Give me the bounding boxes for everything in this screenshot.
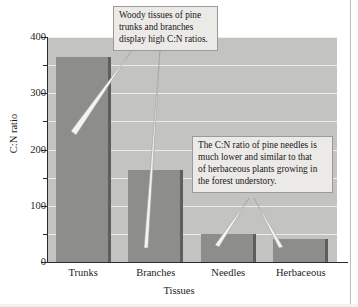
- callout-line: the forest understory.: [198, 176, 327, 188]
- y-tick-label: 400: [30, 32, 46, 43]
- callout-line: of herbaceous plants growing in: [198, 164, 327, 176]
- callout-woody-tissues: Woody tissues of pine trunks and branche…: [113, 6, 218, 51]
- y-tick-label: 300: [30, 88, 46, 99]
- y-tick-label: 100: [30, 201, 46, 212]
- callout-line: display high C:N ratios.: [119, 34, 212, 46]
- callout-line: trunks and branches: [119, 22, 212, 34]
- x-axis-title: Tissues: [0, 285, 358, 296]
- y-tick-minor: [43, 178, 47, 179]
- bar-chart-figure: 0100200300400 TrunksBranchesNeedlesHerba…: [0, 0, 358, 307]
- y-tick-label: 0: [41, 257, 46, 268]
- bar-needles: [201, 234, 256, 262]
- callout-line: much lower and similar to that: [198, 152, 327, 164]
- bar-branches: [128, 170, 183, 262]
- y-axis-title: C:N ratio: [8, 99, 19, 169]
- scan-edge-line: [350, 0, 351, 307]
- bar-trunks: [56, 57, 111, 262]
- y-tick-minor: [43, 65, 47, 66]
- bar-herbaceous: [273, 239, 328, 262]
- callout-needle-ratio: The C:N ratio of pine needles is much lo…: [192, 136, 333, 193]
- y-axis-line: [47, 37, 48, 262]
- callout-line: Woody tissues of pine: [119, 10, 212, 22]
- y-tick-label: 200: [30, 145, 46, 156]
- x-axis-line: [41, 262, 348, 263]
- y-tick-minor: [43, 121, 47, 122]
- x-tick-label-herbaceous: Herbaceous: [256, 267, 346, 278]
- y-tick-minor: [43, 234, 47, 235]
- callout-line: The C:N ratio of pine needles is: [198, 140, 327, 152]
